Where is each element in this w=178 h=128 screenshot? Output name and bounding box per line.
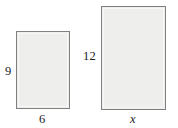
large-rectangle-height-label: 12: [83, 50, 96, 63]
large-rectangle-inner-edge: [103, 8, 164, 108]
small-rectangle-height-label: 9: [5, 65, 11, 78]
small-rectangle-width-label: 6: [39, 113, 45, 126]
large-rectangle: [101, 6, 166, 110]
small-rectangle-inner-edge: [18, 33, 68, 107]
similar-rectangles-figure: 9 6 12 x: [0, 0, 178, 128]
large-rectangle-width-label: x: [130, 113, 136, 126]
small-rectangle: [16, 31, 70, 109]
